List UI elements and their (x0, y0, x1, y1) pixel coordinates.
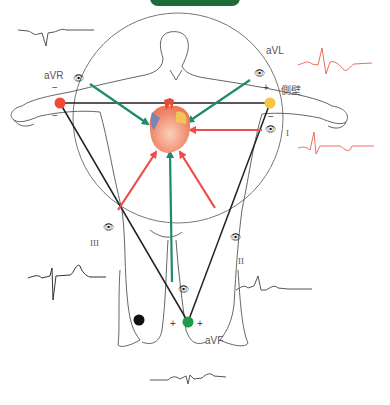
lead-ii-arrow (180, 152, 215, 208)
ecg-ii-trace (236, 276, 312, 290)
diagram-canvas (0, 0, 390, 405)
avf-arrow (170, 152, 172, 282)
left-arm-electrode (265, 98, 276, 109)
right-arm-electrode (55, 98, 66, 109)
lead-avf-label: aVF (205, 335, 223, 346)
avr-arrow (90, 84, 148, 124)
eye-icon: 👁 (103, 222, 114, 232)
right-leg-electrode (134, 315, 145, 326)
ecg-iii-trace (28, 265, 106, 300)
avr-minus-top: − (52, 82, 58, 93)
lead-avr-label: aVR (44, 70, 63, 81)
ecg-i-trace (298, 132, 374, 154)
eye-icon: 👁 (254, 68, 265, 78)
region-lateral-label: 側壁 (281, 82, 301, 97)
ecg-avr-trace (18, 29, 94, 46)
avl-arrow (188, 80, 250, 122)
eye-icon: 👁 (178, 284, 189, 294)
avf-plus-left: + (170, 318, 176, 329)
ecg-avf-trace (150, 374, 226, 384)
heart-illustration (150, 98, 191, 153)
eye-icon: 👁 (230, 232, 241, 242)
left-leg-electrode (183, 317, 194, 328)
ecg-avl-trace (298, 48, 372, 74)
avr-minus-bottom: − (52, 110, 58, 121)
lead-iii-arrow (118, 152, 156, 210)
lead-iii-label: III (90, 238, 99, 248)
lead-avl-label: aVL (266, 45, 284, 56)
eye-icon: 👁 (265, 124, 276, 134)
avf-plus-right: + (197, 318, 203, 329)
lead-i-label: I (286, 128, 289, 138)
ecg-lead-diagram: aVR aVL 側壁 I II III aVF − − + − + + 👁 👁 … (0, 0, 390, 405)
eye-icon: 👁 (73, 73, 84, 83)
avl-minus: − (268, 111, 274, 122)
avl-plus: + (263, 82, 269, 93)
lead-ii-label: II (238, 256, 244, 266)
